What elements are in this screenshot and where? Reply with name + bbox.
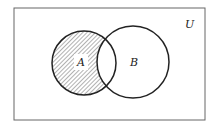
set-b-label: B xyxy=(129,56,138,69)
venn-diagram: A B U xyxy=(0,0,214,128)
set-a-label: A xyxy=(76,56,85,69)
universe-label: U xyxy=(185,18,195,31)
